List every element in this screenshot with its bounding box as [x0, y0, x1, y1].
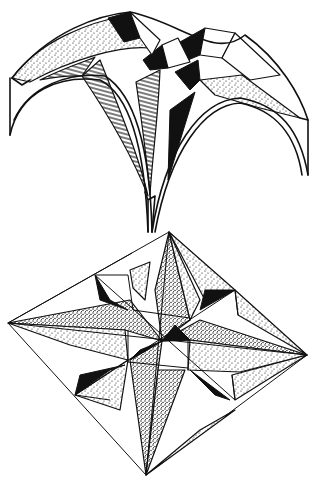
vault-illustration — [0, 0, 320, 486]
plan-drawing — [8, 232, 307, 475]
plan-black-facet — [190, 370, 230, 400]
vault-drawing — [10, 12, 308, 232]
plan-star-arm-west-b — [8, 323, 128, 360]
plan-panel-nw — [130, 262, 150, 300]
